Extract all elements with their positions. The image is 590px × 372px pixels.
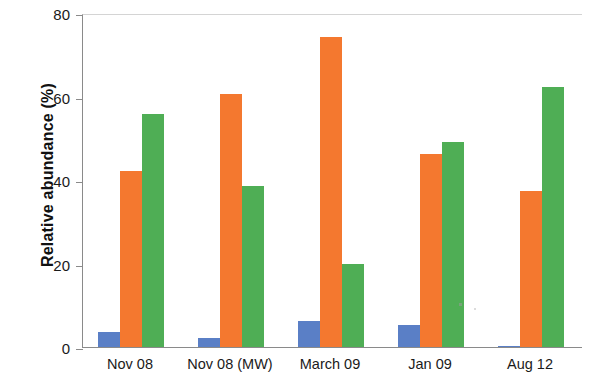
x-axis-tick-label: March 09 bbox=[300, 356, 360, 372]
x-axis-tick-label: Jan 09 bbox=[408, 356, 452, 372]
bar-group bbox=[298, 15, 364, 347]
y-axis-tick-label: 0 bbox=[62, 340, 70, 357]
bar bbox=[142, 114, 164, 347]
bar bbox=[120, 171, 142, 347]
y-axis-tick: 60 bbox=[76, 99, 83, 100]
bar-group bbox=[498, 15, 564, 347]
bar-series-container bbox=[83, 15, 582, 347]
y-axis-tick: 40 bbox=[76, 182, 83, 183]
bar bbox=[298, 321, 320, 347]
y-axis-tick-label: 60 bbox=[53, 90, 70, 107]
bar-group bbox=[398, 15, 464, 347]
plot-area: 020406080 bbox=[82, 14, 582, 348]
bar bbox=[220, 94, 242, 347]
x-axis-tick-label: Nov 08 bbox=[107, 356, 153, 372]
y-axis-tick: 80 bbox=[76, 15, 83, 16]
bar-group bbox=[198, 15, 264, 347]
bar bbox=[198, 338, 220, 347]
bar bbox=[442, 142, 464, 347]
y-axis-tick-label: 40 bbox=[53, 173, 70, 190]
y-axis-tick-label: 20 bbox=[53, 257, 70, 274]
bar bbox=[342, 264, 364, 348]
x-axis-tick-label: Aug 12 bbox=[507, 356, 553, 372]
bar bbox=[320, 37, 342, 347]
y-axis-tick: 0 bbox=[76, 349, 83, 350]
y-axis-tick: 20 bbox=[76, 266, 83, 267]
bar bbox=[398, 325, 420, 347]
bar bbox=[498, 346, 520, 347]
bar bbox=[242, 186, 264, 347]
bar bbox=[420, 154, 442, 347]
y-axis-tick-label: 80 bbox=[53, 6, 70, 23]
bar bbox=[520, 191, 542, 347]
x-axis-tick-label: Nov 08 (MW) bbox=[187, 356, 272, 372]
scan-speck bbox=[459, 303, 462, 306]
bar-group bbox=[98, 15, 164, 347]
scan-speck bbox=[474, 308, 476, 310]
bar bbox=[542, 87, 564, 347]
bar-chart-figure: Relative abundance (%) 020406080 Nov 08N… bbox=[0, 0, 590, 372]
bar bbox=[98, 332, 120, 347]
